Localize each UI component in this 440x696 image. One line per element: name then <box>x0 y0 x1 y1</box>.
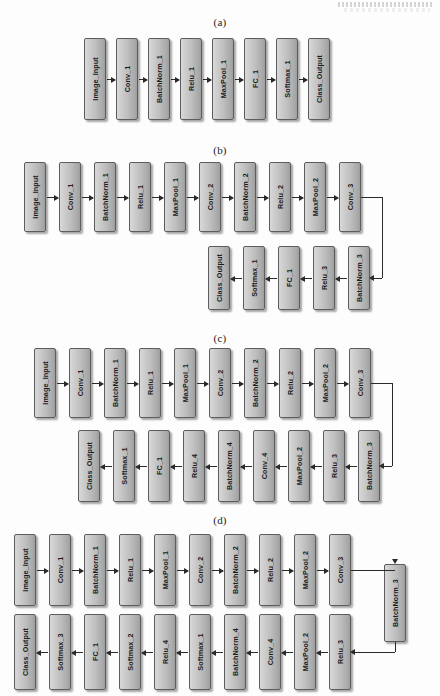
bridge-seg-out-horizontal <box>355 652 395 653</box>
panel-c-label: (c) <box>0 332 440 344</box>
node-label: Relu_3 <box>330 454 339 478</box>
flow-arrow <box>257 197 268 198</box>
panel-b: (b) Image_InputConv_1BatchNorm_1Relu_1Ma… <box>0 130 440 310</box>
flow-arrow <box>72 652 83 653</box>
node-maxpool-1: MaxPool_1 <box>164 162 186 232</box>
node-label: BatchNorm_3 <box>355 254 364 302</box>
node-label: Conv_1 <box>56 557 65 584</box>
node-label: MaxPool_1 <box>171 178 180 216</box>
figure-page: (a) Image_InputConv_1BatchNorm_1Relu_1Ma… <box>0 0 440 696</box>
node-relu-1: Relu_1 <box>180 38 202 120</box>
flow-arrow <box>117 197 128 198</box>
flow-arrow <box>37 570 48 571</box>
node-label: MaxPool_2 <box>311 178 320 216</box>
node-label: Conv_4 <box>266 639 275 666</box>
flow-arrow <box>247 652 258 653</box>
node-softmax-1: Softmax_1 <box>189 614 211 690</box>
node-fc-1: FC_1 <box>84 614 106 690</box>
flow-arrow <box>206 466 217 467</box>
node-label: Relu_2 <box>266 558 275 582</box>
flow-arrow <box>267 79 275 80</box>
panel-d-label: (d) <box>0 514 440 526</box>
node-label: FC_1 <box>251 70 260 88</box>
flow-arrow <box>276 466 287 467</box>
node-label: Relu_4 <box>161 640 170 664</box>
node-conv-4: Conv_4 <box>253 430 275 502</box>
flow-arrow <box>299 79 307 80</box>
node-softmax-1: Softmax_1 <box>276 38 298 120</box>
node-relu-4: Relu_4 <box>183 430 205 502</box>
node-label: Relu_4 <box>190 454 199 478</box>
flow-arrow <box>232 383 243 384</box>
skip-arrowhead <box>379 463 384 469</box>
flow-arrow <box>301 278 312 279</box>
node-image-input: Image_Input <box>84 38 106 120</box>
node-batchnorm-1: BatchNorm_1 <box>104 348 126 418</box>
node-label: Relu_2 <box>286 371 295 395</box>
node-label: BatchNorm_1 <box>111 359 120 407</box>
node-conv-1: Conv_1 <box>59 162 81 232</box>
flow-arrow <box>107 79 115 80</box>
node-image-input: Image_Input <box>34 348 56 418</box>
node-batchnorm-4: BatchNorm_4 <box>224 614 246 690</box>
flow-arrow <box>139 79 147 80</box>
node-maxpool-2: MaxPool_2 <box>314 348 336 418</box>
node-label: BatchNorm_2 <box>251 359 260 407</box>
node-conv-1: Conv_1 <box>116 38 138 120</box>
node-batchnorm-1: BatchNorm_1 <box>148 38 170 120</box>
node-label: BatchNorm_3 <box>365 442 374 490</box>
node-label: Relu_3 <box>320 266 329 290</box>
node-relu-2: Relu_2 <box>269 162 291 232</box>
node-class-output: Class_Output <box>308 38 330 120</box>
panel-d: (d) Image_InputConv_1BatchNorm_1Relu_1Ma… <box>0 510 440 696</box>
node-label: BatchNorm_4 <box>225 442 234 490</box>
node-maxpool-1: MaxPool_1 <box>212 38 234 120</box>
node-image-input: Image_Input <box>14 534 36 606</box>
node-fc-1: FC_1 <box>148 430 170 502</box>
flow-arrow <box>317 570 328 571</box>
node-conv-4: Conv_4 <box>259 614 281 690</box>
flow-arrow <box>142 652 153 653</box>
bridge-arrowhead-out <box>350 649 355 655</box>
node-class-output: Class_Output <box>208 246 230 310</box>
flow-arrow <box>177 570 188 571</box>
node-label: MaxPool_1 <box>181 364 190 402</box>
node-softmax-2: Softmax_2 <box>119 614 141 690</box>
flow-arrow <box>231 278 242 279</box>
flow-arrow <box>152 197 163 198</box>
node-batchnorm-2: BatchNorm_2 <box>224 534 246 606</box>
skip-seg-horizontal-top <box>361 197 382 198</box>
node-conv-2: Conv_2 <box>189 534 211 606</box>
flow-arrow <box>142 570 153 571</box>
node-fc-1: FC_1 <box>244 38 266 120</box>
node-label: Softmax_1 <box>250 259 259 296</box>
flow-arrow <box>203 79 211 80</box>
node-softmax-1: Softmax_1 <box>243 246 265 310</box>
node-label: Softmax_1 <box>283 60 292 97</box>
node-label: Conv_2 <box>206 184 215 211</box>
node-label: BatchNorm_1 <box>155 55 164 103</box>
node-maxpool-1: MaxPool_1 <box>174 348 196 418</box>
skip-seg-horizontal-bottom <box>384 466 392 467</box>
node-label: Class_Output <box>315 55 324 103</box>
node-relu-1: Relu_1 <box>139 348 161 418</box>
skip-seg-vertical <box>382 197 383 278</box>
node-label: Softmax_3 <box>56 633 65 670</box>
skip-seg-vertical <box>392 383 393 466</box>
node-conv-3: Conv_3 <box>349 348 371 418</box>
node-class-output: Class_Output <box>14 614 36 690</box>
flow-arrow <box>107 652 118 653</box>
flow-arrow <box>282 570 293 571</box>
flow-arrow <box>222 197 233 198</box>
flow-arrow <box>247 570 258 571</box>
flow-arrow <box>327 197 338 198</box>
flow-arrow <box>171 79 179 80</box>
node-batchnorm-3: BatchNorm_3 <box>358 430 380 502</box>
node-label: Conv_2 <box>196 557 205 584</box>
node-label: FC_1 <box>285 269 294 287</box>
flow-arrow <box>292 197 303 198</box>
node-label: Relu_1 <box>136 185 145 209</box>
flow-arrow <box>311 466 322 467</box>
skip-seg-horizontal-bottom <box>374 278 382 279</box>
flow-arrow <box>337 383 348 384</box>
